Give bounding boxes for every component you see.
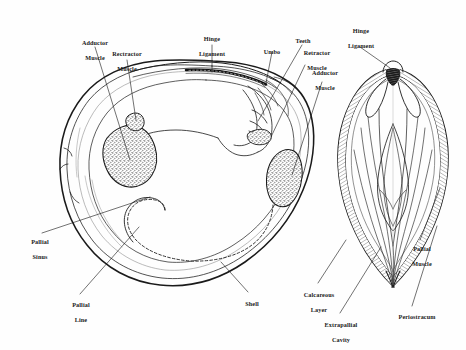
adductor-muscle-scar-left xyxy=(103,125,157,187)
cross-section-left-calcareous-layer xyxy=(338,70,394,287)
label-line-1: Periostracum xyxy=(386,313,448,320)
label-line-2: Muscle xyxy=(96,65,158,72)
label-line-1: Calcareous xyxy=(290,291,348,298)
pallial-sinus-embayment xyxy=(124,197,165,242)
label-line-1: Hinge xyxy=(182,35,242,42)
adductor-muscle-scar-right xyxy=(266,149,302,206)
label-line-2: Sinus xyxy=(14,253,66,260)
label-line-2: Muscle xyxy=(398,260,446,267)
leader-pallial-line xyxy=(80,227,139,294)
label-line-2: Muscle xyxy=(296,84,354,91)
interior-valve-view xyxy=(60,60,314,286)
label-line-1: Pallial xyxy=(14,238,66,245)
hinge-teeth-structure xyxy=(218,86,272,156)
cross-section-nacre-left xyxy=(351,80,394,272)
label-line-1: Shell xyxy=(232,300,272,307)
label-shell: Shell xyxy=(232,293,272,315)
label-periostracum: Periostracum xyxy=(386,306,448,328)
label-hinge-ligament-right: Hinge Ligament xyxy=(332,20,390,56)
label-pallial-line: Pallial Line xyxy=(56,294,106,330)
label-line-2: Line xyxy=(56,316,106,323)
label-line-1: Rectractor xyxy=(96,50,158,57)
label-line-1: Pallial xyxy=(56,301,106,308)
label-hinge-ligament-left: Hinge Ligament xyxy=(182,28,242,64)
label-line-1: Adductor xyxy=(296,69,354,76)
label-line-2: Ligament xyxy=(182,50,242,57)
leader-shell xyxy=(221,262,248,292)
bivalve-anatomy-figure: Adductor Muscle Rectractor Muscle Hinge … xyxy=(0,0,466,350)
label-line-2: Layer xyxy=(290,306,348,313)
label-pallial-muscle: Pallial Muscle xyxy=(398,238,446,274)
label-adductor-muscle-right: Adductor Muscle xyxy=(296,62,354,98)
label-rectractor-muscle-left: Rectractor Muscle xyxy=(96,43,158,79)
pedal-retractor-scar-center xyxy=(247,129,271,145)
label-line-2: Ligament xyxy=(332,42,390,49)
label-pallial-sinus: Pallial Sinus xyxy=(14,231,66,267)
label-line-1: Pallial xyxy=(398,245,446,252)
label-extrapallial-cavity: Extrapallial Cavity xyxy=(310,314,372,350)
leader-calcareous-layer xyxy=(318,240,346,283)
label-line-1: Hinge xyxy=(332,27,390,34)
rectractor-muscle-scar-left xyxy=(126,113,144,131)
label-line-2: Cavity xyxy=(310,336,372,343)
label-line-1: Extrapallial xyxy=(310,321,372,328)
pallial-line xyxy=(128,199,273,261)
